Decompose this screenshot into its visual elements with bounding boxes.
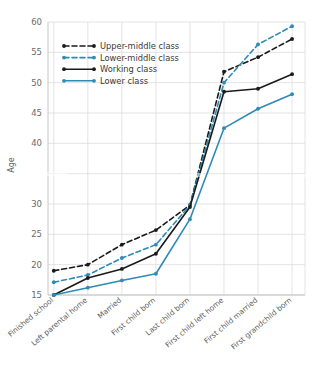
x-tick-label: Left parental home bbox=[29, 295, 89, 347]
legend-item-label: Upper-middle class bbox=[100, 41, 179, 51]
legend-item-label: Lower class bbox=[100, 76, 148, 86]
y-tick-25: 25 bbox=[31, 229, 42, 239]
data-point bbox=[86, 286, 90, 290]
data-point bbox=[154, 252, 158, 256]
data-point bbox=[52, 293, 56, 297]
legend-swatch-marker bbox=[62, 44, 66, 48]
data-point bbox=[86, 276, 90, 280]
series-line-1 bbox=[54, 26, 292, 282]
legend-swatch-marker bbox=[92, 56, 96, 60]
legend-swatch-marker bbox=[92, 79, 96, 83]
data-point bbox=[86, 263, 90, 267]
data-point bbox=[120, 243, 124, 247]
series-line-0 bbox=[54, 39, 292, 271]
legend-swatch-marker bbox=[92, 44, 96, 48]
y-tick-55: 55 bbox=[31, 47, 42, 57]
data-point bbox=[256, 55, 260, 59]
data-point bbox=[188, 205, 192, 209]
legend-item-label: Lower-middle class bbox=[100, 53, 179, 63]
data-point bbox=[222, 70, 226, 74]
data-point bbox=[256, 87, 260, 91]
data-point bbox=[290, 72, 294, 76]
legend-swatch-marker bbox=[62, 67, 66, 71]
age-life-events-line-chart: 152025304045505560 Finished schoolLeft p… bbox=[0, 0, 315, 372]
data-point bbox=[154, 228, 158, 232]
data-point bbox=[52, 280, 56, 284]
data-point bbox=[120, 279, 124, 283]
x-tick-label: Married bbox=[96, 295, 124, 320]
y-tick-30: 30 bbox=[31, 199, 42, 209]
series-line-2 bbox=[54, 74, 292, 295]
data-point bbox=[120, 256, 124, 260]
data-series-group bbox=[52, 24, 294, 297]
data-point bbox=[256, 43, 260, 47]
y-tick-40: 40 bbox=[31, 138, 42, 148]
y-axis-title: Age bbox=[7, 157, 16, 173]
grid-lines bbox=[48, 22, 305, 295]
data-point bbox=[222, 126, 226, 130]
data-point bbox=[290, 92, 294, 96]
x-tick-label: First grandchild born bbox=[229, 295, 293, 351]
data-point bbox=[52, 269, 56, 273]
legend-swatch-marker bbox=[62, 56, 66, 60]
data-point bbox=[222, 81, 226, 85]
data-point bbox=[154, 272, 158, 276]
y-tick-45: 45 bbox=[31, 108, 42, 118]
data-point bbox=[154, 243, 158, 247]
legend-item-label: Working class bbox=[100, 64, 157, 74]
y-tick-60: 60 bbox=[31, 17, 42, 27]
data-point bbox=[290, 37, 294, 41]
x-tick-label: First child left home bbox=[164, 295, 226, 349]
y-tick-20: 20 bbox=[31, 260, 42, 270]
data-point bbox=[222, 90, 226, 94]
legend-swatch-marker bbox=[92, 67, 96, 71]
data-point bbox=[120, 267, 124, 271]
data-point bbox=[188, 217, 192, 221]
y-tick-15: 15 bbox=[31, 290, 42, 300]
y-axis-tick-labels: 152025304045505560 bbox=[31, 17, 42, 300]
chart-legend: Upper-middle classLower-middle classWork… bbox=[62, 41, 179, 86]
data-point bbox=[290, 24, 294, 28]
chart-container: 152025304045505560 Finished schoolLeft p… bbox=[0, 0, 315, 372]
legend-swatch-marker bbox=[62, 79, 66, 83]
y-tick-50: 50 bbox=[31, 78, 42, 88]
x-axis-tick-labels: Finished schoolLeft parental homeMarried… bbox=[6, 295, 293, 351]
data-point bbox=[256, 107, 260, 111]
